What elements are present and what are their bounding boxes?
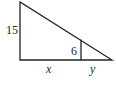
- outer-right-triangle: [20, 2, 112, 60]
- inner-height-label: 6: [71, 44, 77, 58]
- outer-height-label: 15: [6, 23, 18, 37]
- base-right-label: y: [89, 62, 96, 76]
- base-left-label: x: [45, 62, 52, 76]
- triangle-diagram: 15 6 x y: [0, 0, 116, 88]
